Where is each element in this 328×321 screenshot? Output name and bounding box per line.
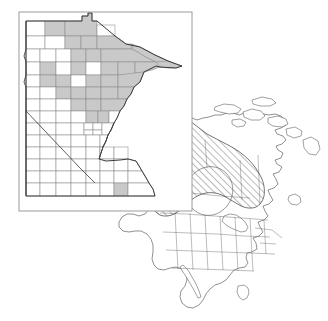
county-cell[interactable] [40, 99, 56, 111]
county-cell[interactable] [86, 183, 100, 196]
county-cell[interactable] [71, 171, 86, 183]
county-cell[interactable] [40, 159, 56, 171]
county-cell[interactable] [114, 183, 128, 196]
county-cell[interactable] [40, 147, 56, 159]
county-cell[interactable] [71, 183, 86, 196]
county-cell[interactable] [26, 21, 45, 36]
county-cell[interactable] [86, 49, 101, 62]
county-cell[interactable] [84, 123, 93, 130]
county-cell[interactable] [71, 75, 86, 87]
county-cell[interactable] [26, 99, 40, 111]
county-cell[interactable] [84, 130, 93, 135]
county-cell[interactable] [114, 147, 128, 159]
county-cell[interactable] [56, 123, 71, 135]
county-cell[interactable] [45, 21, 65, 36]
county-cell[interactable] [40, 87, 56, 99]
arctic-island-1 [214, 104, 241, 114]
minnesota-inset-group [19, 12, 192, 211]
county-cell[interactable] [40, 49, 56, 62]
county-cell[interactable] [56, 159, 71, 171]
county-cell[interactable] [71, 62, 86, 75]
county-cell[interactable] [40, 123, 56, 135]
county-cell[interactable] [71, 87, 86, 99]
county-cell[interactable] [86, 75, 101, 87]
county-cell[interactable] [71, 123, 84, 135]
county-cell[interactable] [56, 87, 71, 99]
newfoundland [288, 194, 301, 205]
county-cell[interactable] [101, 87, 118, 99]
county-cell[interactable] [71, 99, 86, 111]
county-cell[interactable] [56, 99, 71, 111]
county-cell[interactable] [26, 171, 40, 183]
county-cell[interactable] [86, 147, 100, 159]
map-canvas [0, 0, 328, 321]
county-cell[interactable] [56, 183, 71, 196]
county-cell[interactable] [93, 123, 102, 130]
county-cell[interactable] [71, 147, 86, 159]
county-cell[interactable] [26, 36, 45, 49]
arctic-island-3 [252, 97, 276, 106]
county-cell[interactable] [40, 135, 56, 147]
county-cell[interactable] [40, 75, 56, 87]
county-cell[interactable] [114, 159, 128, 171]
county-cell[interactable] [86, 111, 98, 123]
county-cell[interactable] [56, 111, 71, 123]
county-cell[interactable] [40, 111, 56, 123]
county-cell[interactable] [40, 62, 56, 75]
county-cell[interactable] [26, 49, 40, 62]
county-cell[interactable] [56, 75, 71, 87]
yucatan-peninsula [237, 285, 249, 300]
county-cell[interactable] [56, 171, 71, 183]
county-cell[interactable] [71, 49, 86, 62]
county-cell[interactable] [81, 36, 97, 49]
county-cell[interactable] [26, 183, 40, 196]
county-cell[interactable] [86, 159, 100, 171]
county-cell[interactable] [26, 75, 40, 87]
county-cell[interactable] [98, 111, 109, 123]
county-cell[interactable] [45, 36, 65, 49]
arctic-island-5 [286, 127, 302, 138]
county-cell[interactable] [100, 171, 114, 183]
greenland-edge [303, 137, 320, 155]
county-cell[interactable] [101, 62, 118, 75]
county-cell[interactable] [40, 183, 56, 196]
county-cell[interactable] [86, 135, 100, 147]
distribution-map-figure: Minnesota North America breeding / distr… [0, 0, 328, 321]
county-cell[interactable] [71, 111, 86, 123]
county-cell[interactable] [26, 135, 40, 147]
border-line-20 [260, 243, 276, 244]
county-cell[interactable] [101, 75, 118, 87]
county-cell[interactable] [71, 135, 86, 147]
county-cell[interactable] [40, 171, 56, 183]
county-cell[interactable] [26, 147, 40, 159]
county-cell[interactable] [26, 62, 40, 75]
county-cell[interactable] [86, 62, 101, 75]
county-cell[interactable] [56, 49, 71, 62]
county-cell[interactable] [26, 159, 40, 171]
county-cell[interactable] [86, 87, 101, 99]
county-cell[interactable] [86, 99, 101, 111]
county-cell[interactable] [26, 87, 40, 99]
county-cell[interactable] [93, 130, 102, 135]
county-cell[interactable] [65, 36, 81, 49]
county-cell[interactable] [56, 62, 71, 75]
county-cell[interactable] [100, 183, 114, 196]
county-cell[interactable] [26, 123, 40, 135]
county-cell[interactable] [56, 147, 71, 159]
county-cell[interactable] [114, 171, 128, 183]
